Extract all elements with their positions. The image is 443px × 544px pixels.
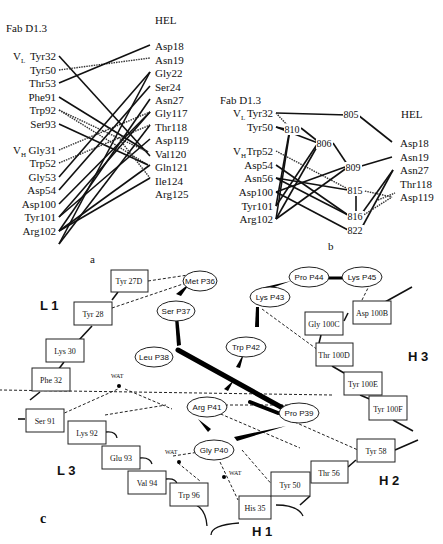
panel-a-ab-residue: Gly53 (29, 171, 57, 183)
region-label-l3: L 3 (57, 463, 76, 478)
panel-a-antigen-residues: Asp18 Asn19 Gly22 Ser24 Asn27 Gly117 Thr… (155, 40, 189, 200)
panel-a: Fab D1.3 HEL VL T (6, 14, 189, 265)
panel-a-hel-residue: Gly22 (155, 67, 183, 79)
water-dot (117, 384, 121, 388)
panel-b-antigen-residues: Asp18 Asn19 Asn27 Thr118 Asp119 (400, 137, 434, 203)
svg-text:VL: VL (233, 107, 245, 122)
panel-b-label: b (328, 240, 334, 252)
region-label-h1: H 1 (252, 524, 272, 539)
panel-a-hel-residue: Gly117 (155, 107, 188, 119)
panel-a-ab-residue: Thr53 (29, 77, 56, 89)
panel-a-ab-residue: Tyr50 (30, 64, 57, 76)
panel-a-hel-residue: Ile124 (155, 175, 184, 187)
panel-c-label: c (40, 511, 46, 526)
svg-text:VL: VL (13, 50, 25, 65)
panel-b-left-title: Fab D1.3 (220, 94, 261, 106)
panel-a-hel-residue: Arg125 (155, 188, 189, 200)
svg-text:Lys 92: Lys 92 (76, 429, 98, 438)
svg-text:Lys 30: Lys 30 (54, 347, 76, 356)
svg-text:Met P36: Met P36 (185, 277, 215, 286)
panel-a-right-title: HEL (155, 14, 177, 26)
panel-b-right-title: HEL (401, 108, 423, 120)
svg-text:Tyr 28: Tyr 28 (83, 310, 104, 319)
panel-a-ab-residue: Phe91 (29, 91, 57, 103)
water-label: 815 (348, 185, 363, 196)
panel-a-ab-residue: Tyr101 (24, 211, 56, 223)
svg-text:Lys P45: Lys P45 (348, 273, 377, 282)
panel-b-hel-residue: Asn27 (400, 164, 429, 176)
panel-b-ab-residue: Tyr101 (241, 200, 273, 212)
region-label-h3: H 3 (408, 349, 428, 364)
svg-text:Tyr 100F: Tyr 100F (373, 405, 403, 414)
panel-a-ab-residue: Arg102 (23, 225, 56, 237)
svg-text:VH: VH (233, 145, 246, 160)
panel-a-hel-residue: Gln121 (155, 161, 188, 173)
svg-text:Lys P43: Lys P43 (256, 293, 285, 302)
svg-text:Ser 91: Ser 91 (35, 417, 56, 426)
water-label: WAT (111, 373, 124, 379)
figure-canvas: Fab D1.3 HEL VL T (0, 0, 443, 544)
panel-b-ab-residue: Tyr50 (247, 121, 274, 133)
water-label: 805 (344, 109, 359, 120)
panel-a-ab-residue: Ser93 (30, 118, 56, 130)
water-label: 810 (285, 124, 300, 135)
water-label: 822 (348, 225, 363, 236)
panel-b-hel-residue: Asp18 (400, 137, 429, 149)
panel-b-hel-residue: Asn19 (400, 151, 429, 163)
svg-text:VH: VH (13, 144, 26, 159)
panel-b-hel-residue: Asp119 (400, 191, 434, 203)
svg-text:Ser P37: Ser P37 (162, 307, 191, 316)
svg-text:Thr 100D: Thr 100D (318, 351, 350, 360)
panel-b-ab-residue: Arg102 (240, 213, 273, 225)
water-label: 809 (346, 162, 361, 173)
panel-a-ab-residue: Tyr32 (30, 50, 56, 62)
panel-a-ab-residue: Trp52 (30, 157, 57, 169)
panel-a-ab-residue: Asp100 (22, 198, 57, 210)
panel-a-ab-residue: Asp54 (27, 184, 56, 196)
panel-a-hel-residue: Val120 (155, 148, 187, 160)
svg-text:Leu P38: Leu P38 (139, 353, 169, 362)
panel-a-left-title: Fab D1.3 (6, 22, 47, 34)
svg-text:Pro P44: Pro P44 (295, 273, 324, 282)
svg-text:Gly P40: Gly P40 (200, 446, 229, 455)
region-label-l1: L 1 (40, 298, 59, 313)
svg-text:Pro P39: Pro P39 (285, 409, 314, 418)
svg-text:Val 94: Val 94 (137, 479, 158, 488)
svg-text:Phe 32: Phe 32 (40, 376, 62, 385)
svg-text:His 35: His 35 (244, 504, 265, 513)
panel-b-ab-residue: Asp54 (244, 159, 273, 171)
panel-b-antibody-residues: VL Tyr32 Tyr50 VH Trp52 Asp54 Asn56 Asp1… (233, 107, 273, 225)
svg-text:Tyr 27D: Tyr 27D (116, 277, 143, 286)
svg-text:Thr 56: Thr 56 (318, 469, 340, 478)
panel-a-antibody-residues: VL Tyr32 Tyr50 Thr53 Phe91 Trp92 Ser93 V… (13, 50, 57, 237)
panel-a-ab-residue: Gly31 (29, 144, 57, 156)
svg-text:Asp 100B: Asp 100B (356, 309, 388, 318)
svg-text:Glu 93: Glu 93 (110, 454, 132, 463)
water-label: WAT (165, 449, 178, 455)
panel-b-hel-residue: Thr118 (400, 178, 432, 190)
svg-text:Trp 96: Trp 96 (178, 491, 199, 500)
svg-text:Gly 100C: Gly 100C (308, 320, 339, 329)
panel-c: WAT WAT WAT Met P36 Ser P37 Leu P38 Pro … (0, 267, 428, 539)
panel-a-label: a (90, 253, 95, 265)
water-dot (222, 475, 226, 479)
panel-a-hel-residue: Asp119 (155, 134, 189, 146)
water-label: 816 (348, 211, 363, 222)
panel-b-ab-residue: Asp100 (239, 186, 274, 198)
svg-text:Trp P42: Trp P42 (232, 343, 261, 352)
panel-a-hel-residue: Ser24 (155, 81, 181, 93)
panel-a-contacts (59, 45, 150, 244)
panel-a-hel-residue: Asn19 (155, 54, 184, 66)
region-label-h2: H 2 (379, 473, 399, 488)
panel-c-antibody: Tyr 27D Tyr 28 Lys 30 Phe 32 Ser 91 Lys … (26, 270, 407, 519)
panel-b-ab-residue: Asn56 (244, 172, 273, 184)
panel-a-hel-residue: Asn27 (155, 94, 184, 106)
panel-a-hel-residue: Thr118 (155, 121, 187, 133)
svg-text:Tyr 100E: Tyr 100E (348, 380, 378, 389)
panel-a-hel-residue: Asp18 (155, 40, 184, 52)
water-label: WAT (229, 470, 242, 476)
panel-a-ab-residue: Trp92 (30, 104, 57, 116)
panel-b-ab-residue: Tyr32 (247, 107, 273, 119)
water-dot (177, 460, 181, 464)
svg-text:Tyr 50: Tyr 50 (280, 481, 301, 490)
